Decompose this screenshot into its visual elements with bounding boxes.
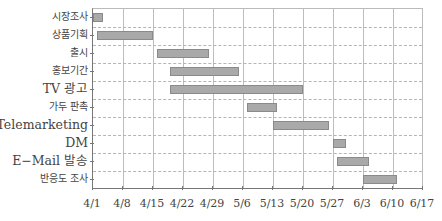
x-axis-tick bbox=[122, 186, 123, 190]
x-axis-label: 6/10 bbox=[380, 197, 405, 210]
task-bar bbox=[170, 67, 239, 76]
x-axis-label: 6/17 bbox=[410, 197, 435, 210]
y-axis-tick bbox=[90, 143, 94, 144]
task-label: DM bbox=[65, 134, 88, 152]
task-bar bbox=[363, 175, 397, 184]
task-label: 상품기획 bbox=[52, 26, 88, 44]
x-axis-label: 5/27 bbox=[320, 197, 345, 210]
x-axis-tick bbox=[242, 186, 243, 190]
task-bar bbox=[93, 13, 103, 22]
horizontal-gridline bbox=[93, 45, 422, 46]
plot-area bbox=[92, 8, 423, 189]
x-axis-tick bbox=[182, 186, 183, 190]
task-label: 시장조사 bbox=[52, 8, 88, 26]
task-bar bbox=[337, 157, 369, 166]
task-label: E−Mail 발송 bbox=[12, 152, 88, 170]
task-label: TV 광고 bbox=[43, 80, 88, 98]
x-axis-tick bbox=[422, 186, 423, 190]
task-label: 가두 판촉 bbox=[49, 98, 88, 116]
x-axis-label: 4/1 bbox=[83, 197, 101, 210]
x-axis-tick bbox=[392, 186, 393, 190]
task-bar bbox=[97, 31, 153, 40]
task-label: 반응도 조사 bbox=[40, 170, 88, 188]
x-axis-label: 4/22 bbox=[170, 197, 195, 210]
horizontal-gridline bbox=[93, 171, 422, 172]
y-axis-tick bbox=[90, 125, 94, 126]
x-axis-label: 5/13 bbox=[260, 197, 285, 210]
horizontal-gridline bbox=[93, 27, 422, 28]
horizontal-gridline bbox=[93, 99, 422, 100]
y-axis-tick bbox=[90, 161, 94, 162]
y-axis-tick bbox=[90, 71, 94, 72]
x-axis-label: 6/3 bbox=[353, 197, 371, 210]
x-axis-tick bbox=[332, 186, 333, 190]
y-axis-tick bbox=[90, 179, 94, 180]
x-axis-label: 5/20 bbox=[290, 197, 315, 210]
task-bar bbox=[273, 121, 329, 130]
task-bar bbox=[170, 85, 303, 94]
x-axis-tick bbox=[92, 186, 93, 190]
horizontal-gridline bbox=[93, 135, 422, 136]
task-bar bbox=[157, 49, 208, 58]
x-axis-tick bbox=[272, 186, 273, 190]
horizontal-gridline bbox=[93, 117, 422, 118]
task-bar bbox=[247, 103, 277, 112]
task-bar bbox=[333, 139, 346, 148]
x-axis-label: 4/29 bbox=[200, 197, 225, 210]
x-axis-label: 5/6 bbox=[233, 197, 251, 210]
x-axis-tick bbox=[362, 186, 363, 190]
x-axis-label: 4/8 bbox=[113, 197, 131, 210]
y-axis-tick bbox=[90, 107, 94, 108]
horizontal-gridline bbox=[93, 153, 422, 154]
x-axis-tick bbox=[212, 186, 213, 190]
y-axis-tick bbox=[90, 89, 94, 90]
x-axis-tick bbox=[152, 186, 153, 190]
task-label: 출시 bbox=[70, 44, 88, 62]
task-label: 홍보기간 bbox=[52, 62, 88, 80]
horizontal-gridline bbox=[93, 81, 422, 82]
gantt-chart: 4/14/84/154/224/295/65/135/205/276/36/10… bbox=[0, 0, 442, 221]
x-axis-tick bbox=[302, 186, 303, 190]
horizontal-gridline bbox=[93, 63, 422, 64]
task-label: Telemarketing bbox=[0, 116, 88, 134]
y-axis-tick bbox=[90, 35, 94, 36]
x-axis-label: 4/15 bbox=[140, 197, 165, 210]
y-axis-tick bbox=[90, 53, 94, 54]
y-axis-tick bbox=[90, 17, 94, 18]
